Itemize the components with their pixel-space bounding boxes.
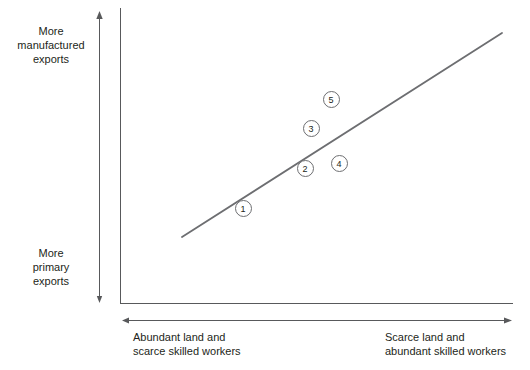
x-axis-left-annotation: Abundant land and scarce skilled workers [133,330,303,358]
data-point-marker-3: 3 [303,120,320,137]
x-axis-right-annotation: Scarce land and abundant skilled workers [385,330,530,358]
y-axis-bottom-annotation: More primary exports [8,246,94,288]
y-direction-arrow-head-down [97,296,102,303]
trend-line [182,33,502,237]
data-point-marker-4: 4 [331,155,348,172]
data-point-marker-2: 2 [297,160,314,177]
x-direction-arrow-head-left [122,318,129,324]
chart-figure: More manufactured exports More primary e… [0,0,530,370]
data-point-marker-1: 1 [235,200,252,217]
data-point-marker-5: 5 [323,91,340,108]
x-direction-arrow-head-right [504,317,512,323]
y-axis-top-annotation: More manufactured exports [8,24,94,66]
y-direction-arrow-head-up [96,11,102,19]
